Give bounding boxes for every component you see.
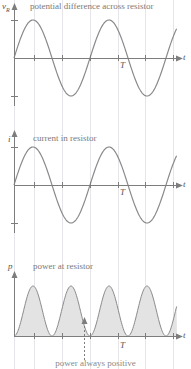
power-y-axis-label: p [8, 262, 13, 273]
power-period-label: T [120, 341, 125, 350]
panel-current [11, 130, 183, 233]
waveform-canvas [0, 0, 191, 369]
voltage-y-axis-label: vR [2, 2, 10, 13]
power-y-axis-symbol: p [8, 261, 13, 271]
voltage-x-axis-arrow [176, 56, 183, 62]
current-period-label: T [120, 188, 125, 197]
voltage-x-axis-label: t [183, 53, 186, 62]
voltage-panel-title: potential difference across resistor [30, 2, 154, 11]
current-y-axis-label: i [8, 135, 11, 146]
power-always-positive-caption: power always positive [0, 359, 191, 368]
current-y-axis-arrow [12, 130, 18, 137]
voltage-period-label: T [120, 61, 125, 70]
power-curve-fill [14, 286, 177, 336]
panel-power [12, 271, 184, 360]
current-x-axis-label: t [183, 180, 186, 189]
panel-voltage [11, 3, 183, 106]
power-x-axis-label: t [183, 331, 186, 340]
voltage-y-axis-subscript: R [6, 7, 10, 13]
current-x-axis-arrow [176, 183, 183, 189]
power-x-axis-arrow [176, 334, 183, 340]
power-panel-title: power at resistor [33, 262, 93, 271]
voltage-y-axis-arrow [12, 3, 18, 10]
current-y-axis-symbol: i [8, 134, 11, 144]
ac-resistor-waveform-figure [0, 0, 191, 369]
current-panel-title: current in resistor [33, 134, 96, 143]
